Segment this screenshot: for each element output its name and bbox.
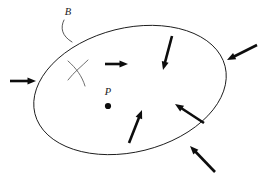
arrow-exterior-right: [227, 45, 257, 60]
squiggle-group: [68, 60, 88, 86]
point-label-p: P: [104, 86, 112, 97]
squiggle-stroke-2: [68, 60, 88, 80]
arrow-exterior-left-head: [28, 78, 37, 85]
region-boundary-ellipse: [20, 6, 240, 174]
arrow-exterior-right-shaft: [234, 45, 257, 57]
figure-canvas: B P: [0, 0, 259, 176]
region-label-b: B: [65, 6, 72, 17]
arrow-interior-upper-right-head: [162, 61, 169, 70]
point-p-group: [105, 103, 111, 109]
arrow-interior-lower-right-shaft: [181, 108, 204, 123]
arrow-interior-lower-right: [175, 104, 204, 123]
arrow-exterior-left: [10, 78, 36, 85]
region-leader-group: [62, 20, 72, 42]
arrow-interior-upper-left: [105, 61, 128, 68]
vector-field-arrows-group: [10, 36, 257, 172]
arrow-interior-lower-left: [129, 110, 142, 143]
point-p-marker: [105, 103, 111, 109]
region-boundary-group: [20, 6, 240, 174]
arrow-interior-lower-left-shaft: [129, 117, 139, 143]
region-leader-line: [62, 20, 72, 42]
arrow-interior-upper-right: [162, 36, 172, 70]
arrow-interior-upper-right-shaft: [165, 36, 172, 63]
arrow-exterior-bottom-shaft: [195, 151, 215, 172]
arrow-interior-lower-left-head: [136, 110, 143, 119]
arrow-interior-upper-left-head: [120, 61, 129, 68]
arrow-exterior-bottom: [190, 146, 215, 172]
figure-container: B P: [0, 0, 259, 176]
